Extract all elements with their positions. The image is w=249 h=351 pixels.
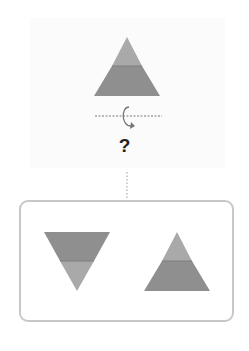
circular-arrow-icon — [123, 107, 135, 129]
question-mark: ? — [0, 135, 249, 157]
options-box — [19, 200, 234, 322]
original-triangle — [94, 37, 160, 96]
